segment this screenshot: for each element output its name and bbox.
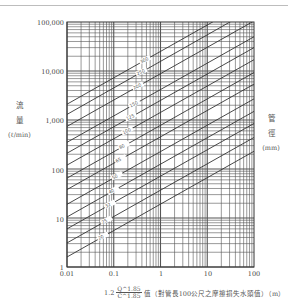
y-axis-label-char1: 流 xyxy=(8,98,30,113)
y2-axis-label-unit: (mm) xyxy=(256,141,286,156)
x-axis-label: 1.2 Q^1.85 C^1.85 值（對管長100公尺之摩擦損失水頭值）（m） xyxy=(104,286,285,299)
y-tick-label: 10 xyxy=(24,216,64,224)
y2-axis-label-char2: 徑 xyxy=(256,126,286,141)
y-tick-label: 100 xyxy=(24,167,64,175)
y-tick-label: 10,000 xyxy=(24,68,64,76)
caption-fraction: Q^1.85 C^1.85 xyxy=(116,286,141,299)
y-tick-label: 100,000 xyxy=(24,19,64,27)
y-axis-label-char2: 量 xyxy=(8,113,30,128)
caption-prefix: 1.2 xyxy=(104,289,114,297)
x-tick-label: 0.1 xyxy=(99,270,129,278)
x-tick-label: 100 xyxy=(239,270,269,278)
chart-plot-area: 30025020015012510080655040322520 xyxy=(0,0,288,307)
y2-axis-label: 管 徑 (mm) xyxy=(256,111,286,156)
y2-axis-label-char1: 管 xyxy=(256,111,286,126)
x-tick-label: 1 xyxy=(146,270,176,278)
y-axis-label: 流 量 (ℓ/min) xyxy=(8,98,30,143)
x-tick-label: 0.01 xyxy=(52,270,82,278)
caption-denominator: C^1.85 xyxy=(118,293,141,299)
y-axis-label-unit: (ℓ/min) xyxy=(8,128,30,143)
caption-text: 值（對管長100公尺之摩擦損失水頭值）（m） xyxy=(144,288,286,298)
y-tick-label: 1,000 xyxy=(24,117,64,125)
x-tick-label: 10 xyxy=(193,270,223,278)
